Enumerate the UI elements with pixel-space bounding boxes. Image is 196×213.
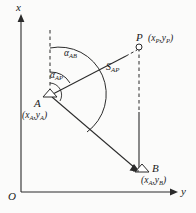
y-axis-label: y — [181, 186, 186, 197]
figure-canvas — [0, 0, 196, 213]
segment-s-ap-subscript: AP — [111, 66, 119, 73]
x-axis-arrowhead — [18, 14, 25, 22]
segment-s-ap-label: SAP — [106, 62, 119, 73]
angle-alpha-ap-label: αAP — [50, 71, 63, 81]
angle-alpha-ap-subscript: AP — [55, 74, 63, 81]
angle-alpha-ab-subscript: AB — [69, 52, 77, 59]
point-p-coord-mid: ,y — [159, 33, 166, 43]
point-a-coord-close: ) — [44, 110, 47, 120]
point-a-coordinates: (xA,yA) — [22, 111, 47, 121]
point-p-coord-close: ) — [170, 33, 173, 43]
geodesy-azimuth-figure: x y O A (xA,yA) P (xP,yP) B (xA,yB) αAB … — [0, 0, 196, 213]
point-p-coordinates: (xP,yP) — [148, 34, 173, 44]
ray-a-to-p-dashed — [126, 50, 137, 56]
point-b-coord-close: ) — [163, 175, 166, 185]
point-p-label: P — [136, 32, 143, 43]
origin-label: O — [8, 191, 16, 202]
point-p-circle-marker — [136, 44, 142, 50]
point-b-label: B — [152, 163, 159, 174]
point-b-coordinates: (xA,yB) — [141, 176, 166, 186]
angle-alpha-ab-label: αAB — [64, 49, 77, 59]
y-axis-arrowhead — [170, 189, 178, 196]
point-a-coord-mid: ,y — [33, 110, 40, 120]
x-axis-label: x — [16, 2, 21, 13]
point-a-label: A — [34, 98, 41, 109]
point-b-coord-mid: ,y — [152, 175, 159, 185]
ray-a-to-b — [52, 97, 135, 168]
